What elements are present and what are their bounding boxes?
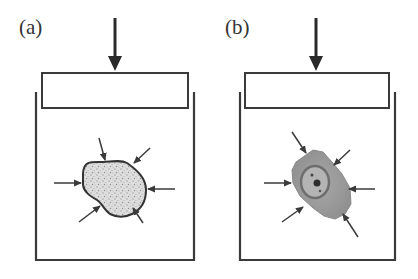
granular-particle: [83, 161, 146, 217]
panel-b: [240, 18, 395, 260]
nucleolus: [314, 180, 321, 187]
load-arrow-icon: [309, 18, 323, 71]
piston: [245, 73, 389, 108]
nucleus-speck: [319, 190, 322, 193]
compression-diagram: [0, 0, 418, 279]
nucleus-speck: [311, 174, 314, 177]
load-arrow-icon: [108, 18, 122, 71]
panel-a: [36, 18, 194, 260]
piston: [42, 73, 188, 108]
